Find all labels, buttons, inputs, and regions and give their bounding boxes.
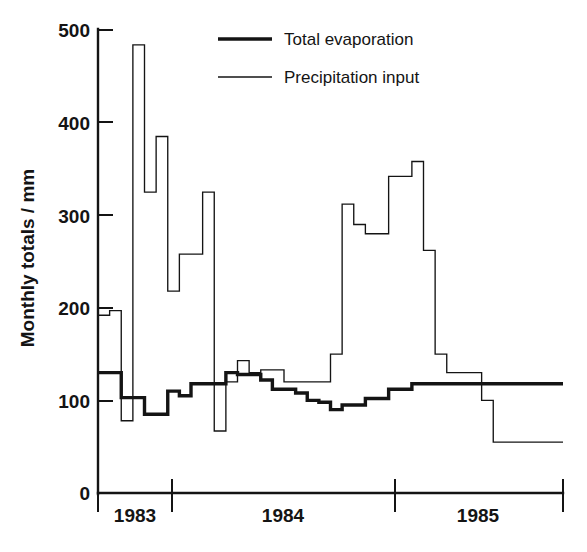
x-year-label-1983: 1983	[114, 505, 156, 526]
x-year-label-1985: 1985	[457, 505, 500, 526]
legend-label-precipitation-input: Precipitation input	[284, 68, 419, 87]
legend-label-total-evaporation: Total evaporation	[284, 30, 413, 49]
y-tick-label-0: 0	[79, 483, 90, 504]
y-tick-label-200: 200	[58, 298, 90, 319]
y-tick-label-400: 400	[58, 113, 90, 134]
x-year-label-1984: 1984	[262, 505, 305, 526]
chart-legend: Total evaporation Precipitation input	[218, 30, 419, 87]
y-tick-label-500: 500	[58, 20, 90, 41]
y-tick-label-100: 100	[58, 391, 90, 412]
y-tick-label-300: 300	[58, 206, 90, 227]
y-axis-title: Monthly totals / mm	[17, 169, 38, 347]
chart-plot-area: Monthly totals / mm 500 400 300 200 100 …	[0, 0, 587, 552]
chart-figure: Monthly totals / mm 500 400 300 200 100 …	[0, 0, 587, 552]
